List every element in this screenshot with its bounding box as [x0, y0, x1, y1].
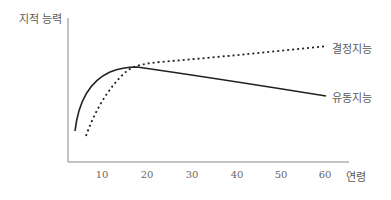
- fluid-line: [75, 67, 326, 131]
- y-axis-label: 지적 능력: [19, 10, 63, 26]
- x-tick: 50: [275, 169, 288, 180]
- crystallized-label: 결정지능: [332, 40, 372, 56]
- x-tick: 20: [141, 169, 154, 180]
- fluid-label: 유동지능: [332, 89, 372, 105]
- x-tick: 60: [319, 169, 332, 180]
- x-tick: 10: [96, 169, 109, 180]
- x-axis-label: 연령: [346, 168, 366, 184]
- x-tick: 30: [186, 169, 199, 180]
- x-tick: 40: [231, 169, 244, 180]
